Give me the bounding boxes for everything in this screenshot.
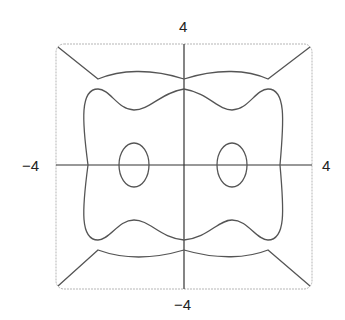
x-min-label: −4: [22, 157, 39, 174]
contour-plot: [0, 0, 345, 320]
y-min-label: −4: [174, 296, 191, 313]
y-max-label: 4: [179, 18, 187, 35]
x-max-label: 4: [322, 157, 330, 174]
